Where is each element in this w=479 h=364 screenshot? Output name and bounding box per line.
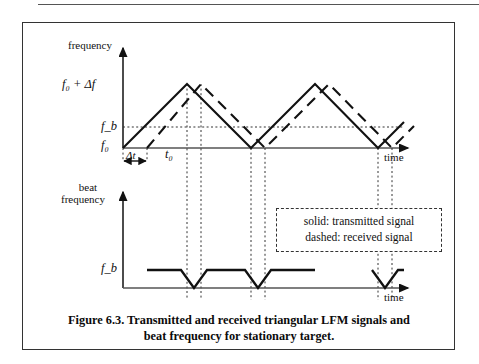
bottom-plot-x-axis-label: time: [384, 292, 404, 304]
legend-dashed-entry: dashed: received signal: [305, 230, 412, 246]
top-plot-x-axis-label: time: [384, 152, 404, 164]
legend-box: solid: transmitted signal dashed: receiv…: [276, 208, 442, 252]
top-plot-droplines: [123, 84, 392, 300]
top-plot-delta-t-label: Δt: [126, 150, 136, 162]
legend-solid-entry: solid: transmitted signal: [304, 214, 415, 230]
bottom-plot-ytick-fb: f_b: [101, 262, 117, 275]
beat-frequency-waveform-tail: [372, 270, 404, 288]
figure-page: frequency time f₀ + Δf f_b f₀ Δt t₀ beat…: [0, 0, 479, 364]
figure-caption: Figure 6.3. Transmitted and received tri…: [34, 312, 444, 344]
top-plot-y-axis-label: frequency: [68, 40, 112, 52]
figure-caption-line2: beat frequency for stationary target.: [34, 328, 444, 344]
top-plot-ytick-f0-plus-df: f₀ + Δf: [62, 78, 95, 91]
bottom-plot-y-axis-label-line1: beat: [58, 182, 118, 194]
figure-caption-line1: Figure 6.3. Transmitted and received tri…: [34, 312, 444, 328]
bottom-plot-y-axis-label-line2: frequency: [48, 194, 118, 206]
top-plot-ytick-f0: f₀: [101, 139, 109, 152]
top-plot-ytick-fb: f_b: [101, 120, 117, 133]
beat-frequency-waveform: [147, 270, 315, 288]
top-plot-t0-label: t₀: [165, 148, 173, 161]
